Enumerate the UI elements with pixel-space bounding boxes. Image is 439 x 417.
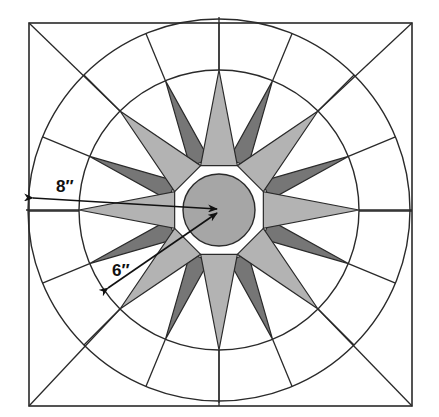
ring-divider-line [348, 264, 395, 284]
ring-divider-line [146, 34, 166, 81]
ring-divider-line [146, 339, 166, 386]
light-star-point [201, 254, 238, 350]
ring-divider-line [273, 34, 293, 81]
outer-radius-label: 8″ [56, 177, 74, 196]
corner-diagonal-line [29, 309, 120, 406]
inner-radius-label: 6″ [112, 261, 130, 280]
compass-diagram: 8″ 6″ [0, 0, 439, 417]
light-star-point [263, 192, 359, 229]
light-star-point [79, 192, 175, 229]
ring-divider-line [43, 264, 90, 284]
ring-divider-line [43, 137, 90, 157]
corner-diagonal-line [29, 23, 120, 111]
ring-divider-line [348, 137, 395, 157]
light-star-point [201, 70, 238, 166]
corner-diagonal-line [318, 309, 412, 406]
ring-divider-line [273, 339, 293, 386]
center-circle [183, 174, 255, 246]
corner-diagonal-line [318, 23, 412, 111]
